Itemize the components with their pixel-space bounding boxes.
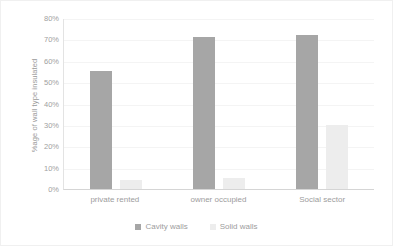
bar-cavity-walls[interactable] (296, 35, 318, 189)
bar-chart: %age of wall type insulated 80%70%60%50%… (0, 0, 393, 246)
bar-group (167, 19, 270, 189)
legend-label: Cavity walls (145, 222, 187, 231)
y-axis-tick-label: 80% (23, 15, 59, 23)
bar-cavity-walls[interactable] (193, 37, 215, 189)
bar-solid-walls[interactable] (326, 125, 348, 189)
y-axis-tick-label: 0% (23, 186, 59, 194)
y-axis-tick-label: 50% (23, 79, 59, 87)
y-axis-tick-labels: 80%70%60%50%40%30%20%10%0% (23, 15, 59, 190)
bar-solid-walls[interactable] (120, 180, 142, 189)
bar-group (271, 19, 374, 189)
y-axis-tick-label: 10% (23, 165, 59, 173)
y-axis-tick-label: 40% (23, 101, 59, 109)
y-axis-tick-label: 70% (23, 36, 59, 44)
y-axis-tick-label: 60% (23, 58, 59, 66)
bar-group (64, 19, 167, 189)
bar-cavity-walls[interactable] (90, 71, 112, 189)
x-axis-tick-labels: private rentedowner occupiedSocial secto… (63, 195, 374, 209)
legend-swatch-icon (210, 224, 216, 230)
x-axis-tick-label: owner occupied (167, 195, 271, 209)
plot-area (63, 19, 374, 190)
chart-legend: Cavity wallsSolid walls (1, 222, 392, 231)
y-axis-tick-label: 30% (23, 122, 59, 130)
bar-solid-walls[interactable] (223, 178, 245, 189)
x-axis-tick-label: private rented (63, 195, 167, 209)
legend-item[interactable]: Solid walls (210, 222, 258, 231)
legend-swatch-icon (135, 224, 141, 230)
bars-layer (64, 19, 374, 189)
x-axis-tick-label: Social sector (270, 195, 374, 209)
legend-item[interactable]: Cavity walls (135, 222, 187, 231)
y-axis-tick-label: 20% (23, 143, 59, 151)
legend-label: Solid walls (220, 222, 258, 231)
